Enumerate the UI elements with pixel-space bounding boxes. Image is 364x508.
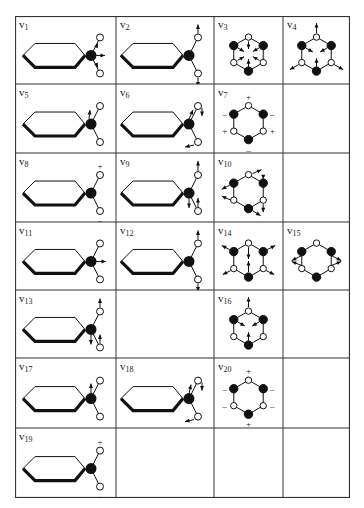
mode-number: 17 (25, 365, 33, 374)
mode-label: v16 (218, 292, 232, 306)
side-view-molecule-diagram (15, 16, 116, 84)
svg-text:+: + (246, 366, 251, 376)
svg-text:+: + (97, 437, 102, 447)
mode-cell-v2: v2 (116, 16, 214, 84)
svg-text:–: – (222, 401, 228, 411)
mode-number: 14 (224, 229, 232, 238)
mode-label: v9 (120, 155, 130, 169)
mode-cell-v5: v5 (15, 84, 116, 153)
side-view-molecule-diagram (116, 84, 214, 153)
mode-label: v8 (19, 155, 29, 169)
mode-label: v3 (218, 18, 228, 32)
vibration-modes-table: v1v2v3v4v5v6+––++–v7+–v8v9v10v11v12v14v1… (15, 16, 350, 498)
mode-label: v15 (287, 224, 301, 238)
mode-number: 3 (224, 23, 228, 32)
mode-cell-v3: v3 (214, 16, 283, 84)
mode-number: 12 (126, 229, 134, 238)
svg-text:+: + (222, 126, 227, 136)
mode-label: v7 (218, 86, 228, 100)
side-view-molecule-diagram (116, 16, 214, 84)
mode-cell-v13: v13 (15, 290, 116, 358)
svg-text:+: + (246, 92, 251, 102)
side-view-molecule-diagram (15, 84, 116, 153)
svg-text:–: – (97, 215, 103, 222)
mode-cell-v20: ++––––v20 (214, 358, 283, 428)
svg-text:–: – (97, 491, 103, 498)
mode-cell-v11: v11 (15, 222, 116, 290)
mode-cell-v1: v1 (15, 16, 116, 84)
mode-number: 13 (25, 297, 33, 306)
mode-number: 15 (293, 229, 301, 238)
mode-number: 19 (25, 435, 33, 444)
mode-cell-v16: v16 (214, 290, 283, 358)
mode-cell-v15: v15 (283, 222, 350, 290)
mode-number: 7 (224, 91, 228, 100)
svg-text:+: + (246, 419, 251, 428)
side-view-molecule-diagram (116, 153, 214, 222)
mode-number: 1 (25, 23, 29, 32)
mode-cell-v8: +–v8 (15, 153, 116, 222)
mode-cell-v10: v10 (214, 153, 283, 222)
mode-label: v10 (218, 155, 232, 169)
svg-text:+: + (270, 126, 275, 136)
mode-label: v14 (218, 224, 232, 238)
mode-label: v5 (19, 86, 29, 100)
svg-text:–: – (269, 401, 275, 411)
mode-label: v11 (19, 224, 32, 238)
mode-cell-v4: v4 (283, 16, 350, 84)
mode-cell-v14: v14 (214, 222, 283, 290)
mode-number: 10 (224, 160, 232, 169)
mode-label: v4 (287, 18, 297, 32)
mode-label: v6 (120, 86, 130, 100)
mode-number: 8 (25, 160, 29, 169)
mode-label: v18 (120, 360, 134, 374)
svg-text:–: – (245, 145, 251, 153)
mode-number: 5 (25, 91, 29, 100)
mode-label: v13 (19, 292, 33, 306)
mode-label: v1 (19, 18, 29, 32)
mode-number: 4 (293, 23, 297, 32)
mode-cell-v9: v9 (116, 153, 214, 222)
mode-cell-v18: v18 (116, 358, 214, 428)
side-view-molecule-diagram: +– (15, 153, 116, 222)
mode-number: 6 (126, 91, 130, 100)
svg-text:–: – (222, 384, 228, 394)
mode-cell-v7: +––++–v7 (214, 84, 283, 153)
mode-label: v19 (19, 430, 33, 444)
mode-cell-v6: v6 (116, 84, 214, 153)
svg-text:+: + (97, 161, 102, 171)
mode-number: 11 (25, 229, 33, 238)
svg-text:–: – (269, 109, 275, 119)
svg-text:–: – (269, 384, 275, 394)
mode-number: 20 (224, 365, 232, 374)
mode-number: 9 (126, 160, 130, 169)
mode-number: 16 (224, 297, 232, 306)
mode-label: v17 (19, 360, 33, 374)
mode-cell-v12: v12 (116, 222, 214, 290)
mode-cell-v19: +–v19 (15, 428, 116, 498)
mode-label: v20 (218, 360, 232, 374)
svg-text:–: – (222, 109, 228, 119)
mode-cell-v17: v17 (15, 358, 116, 428)
mode-label: v12 (120, 224, 134, 238)
mode-label: v2 (120, 18, 130, 32)
mode-number: 2 (126, 23, 130, 32)
mode-number: 18 (126, 365, 134, 374)
